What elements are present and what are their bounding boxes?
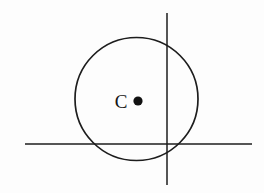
figure-background [0,0,264,193]
center-point-dot [133,96,142,105]
figure-canvas: C [0,0,264,193]
geometry-figure: C [0,0,264,193]
center-point-label: C [115,91,128,112]
